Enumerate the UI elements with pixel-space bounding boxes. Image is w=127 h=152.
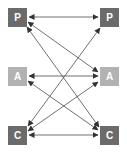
node-label: C xyxy=(106,130,113,141)
edge-leftP-rightC xyxy=(27,27,99,127)
node-left-p: P xyxy=(8,8,27,27)
edge-leftC-rightA xyxy=(28,82,98,131)
node-label: A xyxy=(14,71,21,82)
edge-leftP-rightA xyxy=(28,22,98,72)
node-label: P xyxy=(106,12,113,23)
edge-leftA-rightC xyxy=(28,81,98,130)
node-left-a: A xyxy=(8,67,27,86)
node-label: A xyxy=(106,71,113,82)
node-label: P xyxy=(14,12,21,23)
node-right-p: P xyxy=(100,8,119,27)
edge-leftC-rightP xyxy=(28,28,100,126)
node-right-a: A xyxy=(100,67,119,86)
node-label: C xyxy=(14,130,21,141)
node-left-c: C xyxy=(8,126,27,145)
node-right-c: C xyxy=(100,126,119,145)
